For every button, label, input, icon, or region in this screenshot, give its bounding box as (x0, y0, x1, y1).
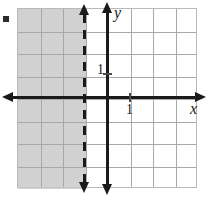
inequality-graph-figure: y x 1 1 (0, 0, 208, 200)
y-axis-tick-one (103, 73, 112, 75)
x-axis-arrow-left-icon (2, 92, 13, 102)
x-axis-tick-one (129, 93, 131, 102)
boundary-arrow-up-icon (79, 4, 89, 15)
y-axis (106, 6, 109, 188)
y-axis-label: y (114, 5, 121, 21)
x-axis-tick-label-one: 1 (126, 103, 133, 117)
y-axis-arrow-up-icon (102, 2, 112, 13)
y-axis-arrow-down-icon (102, 184, 112, 195)
y-axis-tick-label-one: 1 (97, 63, 104, 77)
x-axis (6, 96, 202, 99)
corner-dot-mark (3, 16, 9, 22)
boundary-arrow-down-icon (79, 182, 89, 193)
x-axis-label: x (190, 101, 197, 117)
